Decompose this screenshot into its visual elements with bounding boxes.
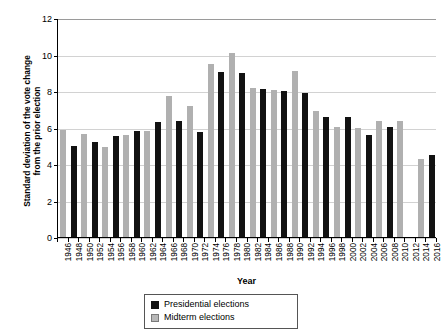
x-axis-tick: [394, 238, 395, 242]
x-axis-tick: [247, 238, 248, 242]
bar: [134, 131, 140, 237]
x-axis-tick-label: 2016: [434, 243, 442, 261]
legend-swatch-midterm-icon: [151, 314, 159, 322]
legend-label-midterm: Midterm elections: [164, 313, 235, 322]
bar: [334, 127, 340, 237]
x-axis-tick: [331, 238, 332, 242]
x-axis-tick: [225, 238, 226, 242]
x-axis-tick: [383, 238, 384, 242]
bar: [345, 117, 351, 237]
x-axis-tick-label: 2002: [360, 243, 368, 261]
y-axis-tick-label: 6: [47, 124, 52, 133]
x-axis-tick: [173, 238, 174, 242]
y-axis-title-line1: Standard deviation of the vote change: [22, 55, 32, 207]
x-axis-tick: [425, 238, 426, 242]
x-axis-tick-label: 1974: [213, 243, 221, 261]
x-axis-tick: [57, 238, 58, 242]
x-axis-tick-label: 1980: [244, 243, 252, 261]
x-axis-tick-label: 1988: [287, 243, 295, 261]
bar: [166, 96, 172, 237]
bar: [197, 132, 203, 237]
y-axis-tick-label: 8: [47, 88, 52, 97]
y-axis-title-line2: from the prior election: [32, 18, 42, 244]
x-axis-tick-label: 1998: [339, 243, 347, 261]
x-axis-tick: [404, 238, 405, 242]
bar: [187, 106, 193, 237]
x-axis-tick: [436, 238, 437, 242]
bar: [260, 89, 266, 237]
x-axis-tick-label: 1958: [129, 243, 137, 261]
x-axis-tick: [152, 238, 153, 242]
bar: [218, 72, 224, 237]
y-axis-tick-label: 2: [47, 197, 52, 206]
chart-figure: Standard deviation of the vote change fr…: [0, 0, 443, 333]
x-axis-tick: [341, 238, 342, 242]
x-axis-tick-label: 2010: [402, 243, 410, 261]
x-axis-tick-label: 1978: [234, 243, 242, 261]
bar: [281, 91, 287, 237]
bar: [92, 142, 98, 237]
x-axis-tick-label: 1954: [108, 243, 116, 261]
x-axis-tick-label: 2004: [371, 243, 379, 261]
x-axis-tick: [99, 238, 100, 242]
x-axis-tick-label: 1970: [192, 243, 200, 261]
x-axis-tick-label: 1990: [297, 243, 305, 261]
x-axis-tick: [110, 238, 111, 242]
x-axis-tick: [310, 238, 311, 242]
x-axis-tick-label: 2008: [392, 243, 400, 261]
x-axis-tick: [257, 238, 258, 242]
x-axis-tick: [215, 238, 216, 242]
bar: [71, 146, 77, 237]
x-axis-tick-label: 1956: [118, 243, 126, 261]
bar: [313, 111, 319, 237]
y-axis-tick-label: 0: [47, 234, 52, 243]
x-axis-tick-label: 2014: [423, 243, 431, 261]
x-axis-tick: [362, 238, 363, 242]
bar: [292, 71, 298, 237]
bar: [323, 117, 329, 237]
bar: [302, 93, 308, 237]
x-axis-tick-label: 1984: [265, 243, 273, 261]
x-axis-tick: [204, 238, 205, 242]
bar: [271, 90, 277, 237]
bar: [355, 128, 361, 237]
x-axis-tick-label: 1992: [308, 243, 316, 261]
x-axis-tick: [236, 238, 237, 242]
bar: [102, 147, 108, 237]
bar: [60, 130, 66, 237]
x-axis-tick-label: 1996: [329, 243, 337, 261]
x-axis-tick-label: 1948: [76, 243, 84, 261]
plot-area: 024681012: [57, 19, 436, 238]
x-axis-tick: [299, 238, 300, 242]
x-axis-title: Year: [57, 276, 436, 286]
bar: [176, 121, 182, 237]
legend-swatch-presidential-icon: [151, 301, 159, 309]
x-axis-tick: [141, 238, 142, 242]
x-axis-tick-label: 1968: [181, 243, 189, 261]
x-axis-tick-label: 1986: [276, 243, 284, 261]
bar: [397, 121, 403, 237]
bar: [429, 155, 435, 237]
x-axis-tick: [415, 238, 416, 242]
x-axis-tick: [89, 238, 90, 242]
bar: [155, 122, 161, 237]
x-axis-tick-label: 2012: [413, 243, 421, 261]
y-axis-tick-label: 10: [42, 51, 52, 60]
x-axis-tick-label: 1952: [97, 243, 105, 261]
x-axis-tick: [194, 238, 195, 242]
x-axis-tick-label: 1962: [150, 243, 158, 261]
bar: [229, 53, 235, 237]
bar: [144, 131, 150, 237]
x-axis-tick-label: 1972: [202, 243, 210, 261]
bar: [208, 64, 214, 237]
x-axis-tick: [120, 238, 121, 242]
x-axis-tick: [289, 238, 290, 242]
bar: [376, 121, 382, 237]
bar: [250, 88, 256, 237]
x-axis-tick-label: 1966: [171, 243, 179, 261]
x-axis-tick-label: 1950: [87, 243, 95, 261]
x-axis-tick-label: 1946: [65, 243, 73, 261]
legend: Presidential elections Midterm elections: [144, 294, 298, 329]
x-axis-tick: [352, 238, 353, 242]
x-axis-tick: [162, 238, 163, 242]
